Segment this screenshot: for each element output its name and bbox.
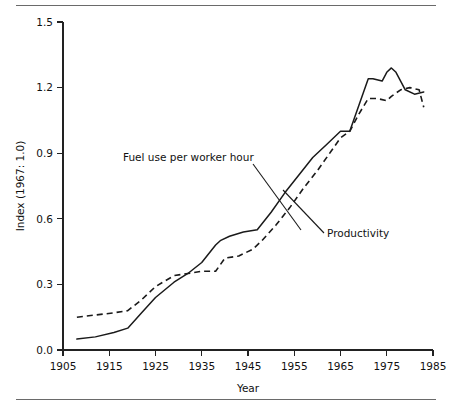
annotations-group: Fuel use per worker hourProductivity bbox=[123, 151, 389, 239]
x-tick-label: 1935 bbox=[188, 360, 215, 372]
figure-container: 0.00.30.60.91.21.5 190519151925193519451… bbox=[0, 0, 452, 414]
x-axis-ticks: 190519151925193519451955196519751985 bbox=[50, 350, 447, 372]
x-tick-label: 1945 bbox=[235, 360, 262, 372]
y-tick-label: 1.2 bbox=[36, 81, 53, 93]
x-tick-label: 1915 bbox=[96, 360, 123, 372]
x-tick-label: 1985 bbox=[420, 360, 447, 372]
y-tick-label: 1.5 bbox=[36, 16, 53, 28]
annotation-label: Productivity bbox=[327, 227, 389, 239]
annotation-label: Fuel use per worker hour bbox=[123, 151, 254, 163]
y-tick-label: 0.0 bbox=[36, 344, 53, 356]
y-tick-label: 0.6 bbox=[36, 213, 53, 225]
bottom-divider-rule bbox=[16, 399, 436, 400]
x-tick-label: 1965 bbox=[327, 360, 354, 372]
y-tick-label: 0.9 bbox=[36, 147, 53, 159]
x-tick-label: 1955 bbox=[281, 360, 308, 372]
series-group bbox=[77, 68, 424, 339]
y-tick-label: 0.3 bbox=[36, 278, 53, 290]
x-axis-title: Year bbox=[236, 382, 260, 394]
series-line-productivity bbox=[77, 88, 424, 318]
series-line-fuel-use-per-worker-hour bbox=[77, 68, 424, 339]
x-tick-label: 1975 bbox=[373, 360, 400, 372]
annotation-leader-line bbox=[283, 190, 324, 233]
y-axis-title: Index (1967: 1.0) bbox=[14, 141, 26, 232]
line-chart: 0.00.30.60.91.21.5 190519151925193519451… bbox=[0, 0, 452, 395]
y-axis-ticks: 0.00.30.60.91.21.5 bbox=[36, 16, 63, 356]
annotation-leader-line bbox=[253, 164, 301, 230]
x-tick-label: 1925 bbox=[142, 360, 169, 372]
top-divider-rule bbox=[16, 5, 436, 6]
x-tick-label: 1905 bbox=[50, 360, 77, 372]
axes-group bbox=[63, 22, 433, 350]
